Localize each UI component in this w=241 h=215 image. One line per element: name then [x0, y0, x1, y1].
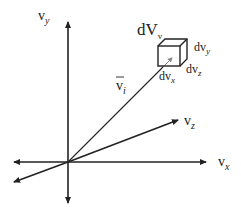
- vx-label: vx: [218, 154, 230, 172]
- dVv-label: dVv: [137, 20, 163, 41]
- vy-label: vy: [38, 8, 50, 26]
- vz-axis: [68, 120, 178, 162]
- svg-text:vi: vi: [116, 78, 126, 96]
- vz-label: vz: [184, 113, 195, 131]
- velocity-vector: [68, 58, 172, 162]
- dvy-label: dvy: [194, 40, 210, 56]
- dvx-label: dvx: [159, 69, 175, 85]
- vector-label: vi: [116, 77, 126, 96]
- dvz-label: dvz: [186, 62, 202, 78]
- volume-element-cube: [158, 39, 187, 66]
- velocity-space-diagram: vy vx vz vi dVv dvy dvz dvx: [0, 0, 241, 215]
- neg-vz-axis: [14, 162, 68, 182]
